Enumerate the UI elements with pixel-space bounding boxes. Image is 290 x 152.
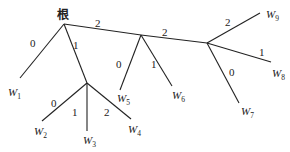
edge-label-A-W2: 0 [51, 97, 57, 109]
leaf-label-w6: W6 [172, 89, 185, 104]
edge-label-root-A: 1 [73, 39, 79, 51]
edge-label-B-W6: 1 [151, 58, 157, 70]
edge-root-B [64, 24, 141, 35]
leaf-label-w5: W5 [117, 92, 130, 107]
edge-label-C-W8: 1 [259, 46, 265, 58]
leaf-label-w8: W8 [272, 67, 285, 82]
leaf-label-w7: W7 [241, 105, 254, 120]
edge-label-root-B: 2 [95, 17, 101, 29]
leaf-label-w4: W4 [128, 123, 141, 138]
leaf-label-w2: W2 [34, 125, 47, 140]
root-node-label: 根 [57, 7, 69, 22]
edge-label-root-W1: 0 [30, 37, 36, 49]
edge-B-C [141, 35, 207, 43]
edge-root-W1 [20, 24, 64, 78]
edge-B-W5 [120, 35, 141, 90]
tree-leaf-labels: W1W2W3W4W5W6W7W8W9 [8, 8, 285, 149]
leaf-label-w3: W3 [83, 134, 96, 149]
tree-diagram: 012012012210 W1W2W3W4W5W6W7W8W9 根 [0, 0, 290, 152]
edge-label-C-W9: 2 [225, 16, 231, 28]
leaf-label-w1: W1 [8, 86, 21, 101]
edge-label-C-W7: 0 [229, 66, 235, 78]
edge-label-A-W3: 1 [72, 106, 78, 118]
tree-edge-labels: 012012012210 [30, 16, 265, 118]
edge-label-B-W5: 0 [116, 58, 122, 70]
edge-label-B-C: 2 [162, 26, 168, 38]
edge-C-W9 [207, 13, 260, 43]
leaf-label-w9: W9 [266, 8, 279, 23]
edge-A-W2 [42, 83, 87, 121]
edge-label-A-W4: 2 [104, 106, 110, 118]
edge-root-A [64, 24, 87, 83]
edge-B-W6 [141, 35, 172, 86]
